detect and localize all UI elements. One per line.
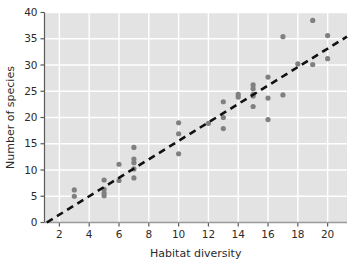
data-point [176,120,181,125]
y-tick-label: 10 [24,164,37,176]
x-tick-label: 12 [202,228,215,240]
x-tick-label: 16 [261,228,275,240]
data-point [72,187,77,192]
y-tick-label: 35 [24,32,37,44]
data-point [310,18,315,23]
data-point [265,117,270,122]
y-tick-label: 40 [24,6,37,18]
data-point [325,56,330,61]
scatter-plot-figure: 05101520253035402468101214161820 Habitat… [0,0,362,268]
y-tick-label: 0 [31,216,38,228]
data-point [310,62,315,67]
x-tick-label: 14 [232,228,246,240]
x-tick-label: 20 [321,228,334,240]
x-tick-label: 8 [145,228,152,240]
data-point [131,175,136,180]
data-point [221,99,226,104]
y-tick-label: 15 [24,137,37,149]
y-axis-title: Number of species [4,66,17,169]
data-point [325,33,330,38]
data-point [295,61,300,66]
data-point [236,94,241,99]
data-point [176,151,181,156]
data-point [102,177,107,182]
data-point [176,131,181,136]
data-point [131,160,136,165]
y-tick-label: 30 [24,59,37,71]
x-tick-label: 10 [172,228,185,240]
y-tick-label: 20 [24,111,37,123]
data-point [251,104,256,109]
data-point [265,74,270,79]
x-tick-label: 4 [86,228,93,240]
data-point [102,193,107,198]
y-tick-label: 25 [24,85,37,97]
data-point [116,162,121,167]
data-point [251,86,256,91]
x-tick-label: 6 [116,228,123,240]
x-tick-label: 2 [56,228,63,240]
data-point [265,95,270,100]
x-axis-title: Habitat diversity [150,247,242,260]
data-point [280,34,285,39]
x-tick-label: 18 [291,228,304,240]
y-tick-label: 5 [31,190,38,202]
data-point [72,194,77,199]
chart-canvas: 05101520253035402468101214161820 Habitat… [0,0,362,268]
data-point [221,126,226,131]
data-point [131,145,136,150]
data-point [280,92,285,97]
